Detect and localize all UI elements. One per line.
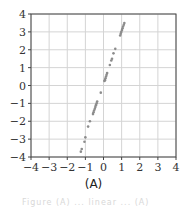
data-point: [84, 136, 87, 139]
y-tick-label: 4: [19, 8, 26, 21]
faded-footer-text: Figure (A) ... linear ... (A): [22, 198, 167, 208]
x-axis-tick-labels: −4−3−2−101234: [23, 161, 180, 174]
y-tick-label: 2: [19, 44, 26, 57]
axis-ticks: [28, 14, 176, 160]
data-point: [89, 120, 92, 123]
y-tick-label: −4: [10, 151, 26, 164]
y-tick-label: −2: [10, 115, 26, 128]
data-point: [80, 150, 83, 153]
figure-caption: (A): [0, 177, 187, 191]
y-tick-label: −3: [10, 133, 26, 146]
grid-lines: [31, 14, 176, 157]
data-point: [99, 91, 102, 94]
y-tick-label: 3: [19, 26, 26, 39]
scatter-plot: −4−3−2−101234 −4−3−2−101234: [0, 0, 187, 175]
y-tick-label: 1: [19, 62, 26, 75]
y-tick-label: −1: [10, 97, 26, 110]
data-point: [110, 59, 113, 62]
data-point: [87, 125, 90, 128]
data-point: [103, 80, 106, 83]
x-tick-label: 0: [100, 161, 107, 174]
data-point: [114, 48, 117, 51]
data-point: [119, 34, 122, 37]
data-point: [112, 52, 115, 55]
data-point: [92, 113, 95, 116]
y-tick-label: 0: [19, 80, 26, 93]
data-point: [109, 64, 112, 67]
data-points: [80, 22, 126, 153]
x-tick-label: 4: [173, 161, 180, 174]
x-tick-label: 2: [136, 161, 143, 174]
y-axis-tick-labels: −4−3−2−101234: [10, 8, 26, 164]
x-tick-label: 3: [154, 161, 161, 174]
data-point: [83, 141, 86, 144]
x-tick-label: 1: [118, 161, 125, 174]
data-point: [80, 148, 83, 151]
x-tick-label: −2: [59, 161, 75, 174]
x-tick-label: −3: [41, 161, 57, 174]
x-tick-label: −1: [77, 161, 93, 174]
